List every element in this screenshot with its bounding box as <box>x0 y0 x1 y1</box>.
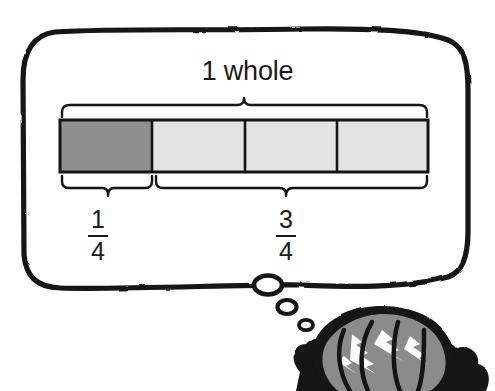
illustration-stage: 1 whole 1 4 3 4 <box>0 0 495 391</box>
whole-label: 1 whole <box>0 58 495 85</box>
fraction-label-one-quarter: 1 4 <box>76 207 120 264</box>
fraction-denominator: 4 <box>76 239 120 265</box>
fraction-numerator: 3 <box>264 207 308 233</box>
fraction-label-three-quarters: 3 4 <box>264 207 308 264</box>
fraction-denominator: 4 <box>264 239 308 265</box>
fraction-numerator: 1 <box>76 207 120 233</box>
